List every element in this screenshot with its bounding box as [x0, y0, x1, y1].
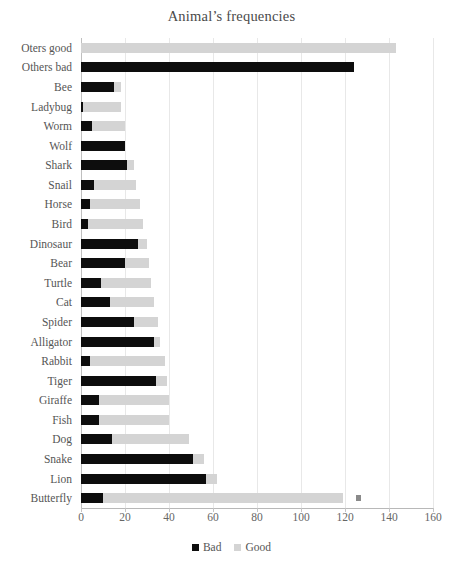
stacked-bar[interactable]	[81, 493, 343, 503]
stacked-bar[interactable]	[81, 141, 125, 151]
bar-segment-bad[interactable]	[81, 395, 99, 405]
bar-segment-good[interactable]	[154, 337, 161, 347]
stacked-bar[interactable]	[81, 199, 140, 209]
bar-segment-good[interactable]	[193, 454, 204, 464]
bar-segment-good[interactable]	[127, 160, 134, 170]
category-label: Fish	[52, 414, 72, 426]
bar-segment-good[interactable]	[110, 297, 154, 307]
category-label: Others bad	[22, 61, 72, 73]
bar-segment-good[interactable]	[114, 82, 121, 92]
bar-segment-bad[interactable]	[81, 82, 114, 92]
bar-row: Butterfly	[81, 488, 433, 508]
bar-segment-bad[interactable]	[81, 278, 101, 288]
bar-segment-good[interactable]	[125, 258, 149, 268]
bar-row: Snake	[81, 449, 433, 469]
bar-segment-bad[interactable]	[81, 317, 134, 327]
bar-row: Dinosaur	[81, 234, 433, 254]
bar-segment-good[interactable]	[88, 219, 143, 229]
x-tick-label-0: 0	[78, 511, 84, 523]
bar-segment-bad[interactable]	[81, 297, 110, 307]
bar-segment-bad[interactable]	[81, 160, 127, 170]
bar-segment-good[interactable]	[81, 43, 396, 53]
bar-segment-bad[interactable]	[81, 493, 103, 503]
bar-segment-bad[interactable]	[81, 219, 88, 229]
stacked-bar[interactable]	[81, 474, 217, 484]
bar-segment-good[interactable]	[206, 474, 217, 484]
bar-segment-good[interactable]	[156, 376, 167, 386]
bar-row: Tiger	[81, 371, 433, 391]
category-label: Snail	[48, 179, 72, 191]
bar-segment-good[interactable]	[134, 317, 158, 327]
bar-segment-bad[interactable]	[81, 415, 99, 425]
stacked-bar[interactable]	[81, 219, 143, 229]
category-label: Snake	[44, 453, 72, 465]
bar-segment-bad[interactable]	[81, 356, 90, 366]
legend-item[interactable]: Good	[234, 541, 271, 553]
stacked-bar[interactable]	[81, 160, 134, 170]
bar-segment-bad[interactable]	[81, 474, 206, 484]
stacked-bar[interactable]	[81, 102, 121, 112]
x-tick-label-140: 140	[380, 511, 397, 523]
bar-segment-good[interactable]	[103, 493, 343, 503]
category-label: Spider	[42, 316, 72, 328]
category-label: Turtle	[44, 277, 72, 289]
stacked-bar[interactable]	[81, 415, 169, 425]
stacked-bar[interactable]	[81, 278, 151, 288]
stacked-bar[interactable]	[81, 454, 204, 464]
legend-label: Good	[245, 541, 271, 553]
stacked-bar[interactable]	[81, 434, 189, 444]
bar-row: Bird	[81, 214, 433, 234]
legend-item[interactable]: Bad	[192, 541, 222, 553]
stacked-bar[interactable]	[81, 395, 169, 405]
bar-segment-bad[interactable]	[81, 337, 154, 347]
stacked-bar[interactable]	[81, 82, 121, 92]
stacked-bar[interactable]	[81, 356, 165, 366]
category-label: Giraffe	[39, 394, 72, 406]
bar-segment-good[interactable]	[90, 199, 141, 209]
bar-segment-bad[interactable]	[81, 199, 90, 209]
category-label: Shark	[45, 159, 72, 171]
stacked-bar[interactable]	[81, 180, 136, 190]
bar-segment-bad[interactable]	[81, 121, 92, 131]
bar-segment-good[interactable]	[112, 434, 189, 444]
bar-row: Alligator	[81, 332, 433, 352]
category-label: Horse	[45, 198, 72, 210]
bar-segment-bad[interactable]	[81, 434, 112, 444]
bar-segment-bad[interactable]	[81, 258, 125, 268]
bar-segment-good[interactable]	[101, 278, 152, 288]
chart-legend: BadGood	[0, 541, 463, 553]
legend-swatch-icon	[234, 544, 241, 551]
legend-label: Bad	[203, 541, 222, 553]
bar-segment-good[interactable]	[90, 356, 165, 366]
stacked-bar[interactable]	[81, 239, 147, 249]
bar-segment-bad[interactable]	[81, 141, 125, 151]
bar-segment-bad[interactable]	[81, 180, 94, 190]
bar-segment-good[interactable]	[94, 180, 136, 190]
bar-segment-good[interactable]	[83, 102, 120, 112]
bar-segment-good[interactable]	[138, 239, 147, 249]
stacked-bar[interactable]	[81, 121, 125, 131]
stacked-bar[interactable]	[81, 43, 396, 53]
stacked-bar[interactable]	[81, 297, 154, 307]
stacked-bar[interactable]	[81, 317, 158, 327]
category-label: Alligator	[30, 336, 72, 348]
stacked-bar[interactable]	[81, 62, 354, 72]
category-label: Tiger	[48, 375, 73, 387]
stacked-bar[interactable]	[81, 258, 149, 268]
bar-segment-bad[interactable]	[81, 454, 193, 464]
bar-segment-good[interactable]	[92, 121, 125, 131]
bar-segment-good[interactable]	[99, 395, 169, 405]
category-label: Wolf	[49, 140, 72, 152]
stacked-bar[interactable]	[81, 337, 160, 347]
x-tick-label-120: 120	[336, 511, 353, 523]
bar-segment-bad[interactable]	[81, 62, 354, 72]
category-label: Dog	[52, 433, 72, 445]
bar-segment-bad[interactable]	[81, 239, 138, 249]
bar-row: Worm	[81, 116, 433, 136]
bar-row: Fish	[81, 410, 433, 430]
bar-row: Dog	[81, 430, 433, 450]
plot-area: Oters goodOthers badBeeLadybugWormWolfSh…	[81, 38, 433, 508]
bar-segment-good[interactable]	[99, 415, 169, 425]
bar-segment-bad[interactable]	[81, 376, 156, 386]
stacked-bar[interactable]	[81, 376, 167, 386]
